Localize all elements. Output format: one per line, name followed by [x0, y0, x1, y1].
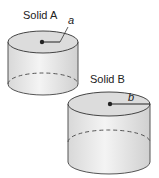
solid-b-label: Solid B — [90, 73, 125, 85]
solid-b-cylinder — [68, 92, 150, 174]
cylinders-diagram — [0, 0, 159, 178]
solid-a-cylinder — [8, 27, 78, 95]
radius-b-label: b — [128, 91, 134, 103]
solid-a-label: Solid A — [23, 9, 57, 21]
radius-a-label: a — [68, 14, 74, 26]
